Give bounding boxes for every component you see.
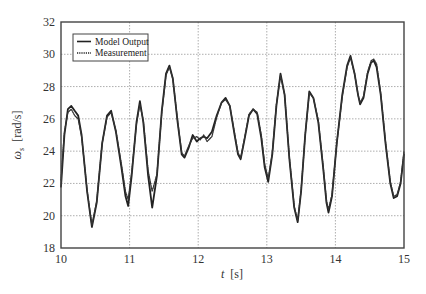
x-tick-label: 14	[329, 252, 341, 266]
legend-label-model: Model Output	[95, 37, 149, 47]
y-axis-label-sub: s	[17, 148, 26, 151]
svg-text:ωs [rad/s]: ωs [rad/s]	[10, 111, 27, 160]
y-tick-label: 24	[43, 144, 55, 158]
line-chart: 1820222426283032 101112131415 t [s] ωs […	[0, 0, 426, 294]
y-tick-label: 28	[43, 80, 55, 94]
x-tick-label: 11	[124, 252, 136, 266]
x-tick-label: 15	[398, 252, 410, 266]
y-tick-label: 32	[43, 15, 55, 29]
series-measurement	[61, 58, 404, 226]
legend: Model Output Measurement	[73, 34, 149, 61]
data-series	[61, 56, 404, 227]
y-axis-label-symbol: ω	[10, 151, 24, 159]
y-tick-label: 20	[43, 209, 55, 223]
y-tick-label: 22	[43, 176, 55, 190]
y-tick-label: 26	[43, 112, 55, 126]
svg-text:t [s]: t [s]	[221, 267, 243, 281]
x-axis-label-var: t	[221, 267, 225, 281]
y-axis-label: ωs [rad/s]	[10, 111, 27, 160]
x-tick-label: 12	[192, 252, 204, 266]
y-axis-label-unit: [rad/s]	[10, 111, 24, 142]
x-axis-label-unit: [s]	[230, 267, 243, 281]
x-tick-label: 10	[55, 252, 67, 266]
series-model-output	[61, 56, 404, 227]
y-tick-labels: 1820222426283032	[43, 15, 55, 255]
x-tick-label: 13	[261, 252, 273, 266]
y-tick-label: 18	[43, 241, 55, 255]
x-tick-labels: 101112131415	[55, 252, 410, 266]
y-tick-label: 30	[43, 47, 55, 61]
legend-label-measurement: Measurement	[95, 48, 147, 58]
x-axis-label: t [s]	[221, 267, 243, 281]
